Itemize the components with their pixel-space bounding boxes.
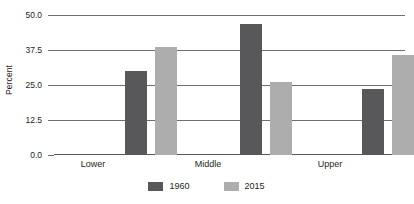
y-axis-title: Percent [0, 0, 18, 160]
gridline-50 [54, 15, 405, 16]
y-tick-label-37-5: 37.5 [0, 46, 42, 55]
y-tick-dash-0 [48, 155, 54, 156]
chart-legend: 1960 2015 [0, 182, 413, 191]
bar-middle-2015[interactable] [270, 82, 292, 155]
gridline-37-5 [54, 50, 405, 51]
x-axis-label-upper: Upper [287, 160, 373, 169]
plot-area [54, 15, 405, 155]
legend-item-1960[interactable]: 1960 [148, 182, 189, 191]
x-axis-label-middle: Middle [165, 160, 251, 169]
y-tick-label-25: 25.0 [0, 81, 42, 90]
legend-swatch-icon-2015 [224, 182, 239, 191]
x-axis-label-lower: Lower [50, 160, 136, 169]
bar-middle-1960[interactable] [240, 24, 262, 155]
y-tick-label-12-5: 12.5 [0, 116, 42, 125]
legend-label-1960: 1960 [169, 182, 189, 191]
y-axis-title-label: Percent [4, 65, 14, 95]
y-tick-label-0: 0.0 [0, 151, 42, 160]
legend-label-2015: 2015 [245, 182, 265, 191]
legend-item-2015[interactable]: 2015 [224, 182, 265, 191]
gridline-12-5 [54, 120, 405, 121]
bar-upper-1960[interactable] [362, 89, 384, 155]
bar-lower-2015[interactable] [155, 47, 177, 155]
gridline-25 [54, 85, 405, 86]
y-tick-label-50: 50.0 [0, 11, 42, 20]
bar-upper-2015[interactable] [392, 55, 414, 155]
bar-lower-1960[interactable] [125, 71, 147, 156]
legend-swatch-icon-1960 [148, 182, 163, 191]
gridline-baseline [54, 154, 405, 155]
